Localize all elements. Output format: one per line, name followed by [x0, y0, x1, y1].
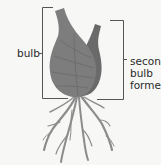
main-bulb: [50, 8, 96, 97]
second-bulb-bracket: [97, 21, 127, 100]
roots: [43, 96, 114, 162]
second-bulb-label-line3: formed: [130, 79, 161, 91]
second-bulb-label-line2: bulb: [130, 67, 161, 79]
bulb-label: bulb: [17, 47, 40, 59]
second-bulb-label: second bulb formed: [130, 55, 161, 91]
second-bulb-label-line1: second: [130, 55, 161, 67]
